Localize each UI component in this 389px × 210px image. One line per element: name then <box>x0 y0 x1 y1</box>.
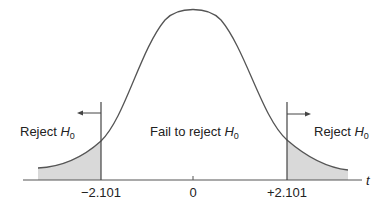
right-arrowhead-icon <box>305 112 311 117</box>
right-region-label: Reject H0 <box>314 124 369 141</box>
left-arrowhead-icon <box>77 111 83 116</box>
tick-label-zero: 0 <box>189 185 196 200</box>
left-region-label: Reject H0 <box>20 124 75 141</box>
bell-curve <box>38 10 348 171</box>
right-rejection-region <box>287 140 348 180</box>
t-distribution-diagram: Reject H0 Fail to reject H0 Reject H0 −2… <box>0 0 389 210</box>
tick-label-neg: −2.101 <box>81 185 121 200</box>
center-region-label: Fail to reject H0 <box>150 124 239 141</box>
tick-label-pos: +2.101 <box>267 185 307 200</box>
axis-label-t: t <box>366 173 371 188</box>
